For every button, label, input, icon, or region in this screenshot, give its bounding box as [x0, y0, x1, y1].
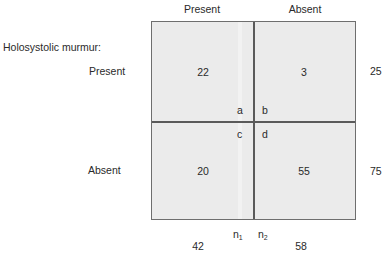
n1-label: n1	[233, 228, 243, 241]
row-header-present: Present	[89, 65, 125, 77]
n2-label: n2	[258, 228, 268, 241]
column-header-absent: Absent	[289, 3, 322, 15]
row-title: Holosystolic murmur:	[3, 41, 101, 53]
cell-a-value: 22	[197, 66, 209, 78]
row-total-present: 25	[370, 65, 382, 77]
column-total-present: 42	[192, 240, 204, 252]
cell-b-label: b	[262, 104, 268, 116]
cell-c-label: c	[237, 128, 242, 140]
horizontal-divider	[152, 121, 355, 123]
cell-c-value: 20	[197, 165, 209, 177]
contingency-table: 22 3 20 55 a b c d	[151, 21, 356, 220]
cell-d-label: d	[262, 128, 268, 140]
row-header-absent: Absent	[88, 164, 121, 176]
column-header-present: Present	[184, 3, 220, 15]
cell-d-value: 55	[298, 165, 310, 177]
cell-a-label: a	[237, 104, 243, 116]
row-total-absent: 75	[370, 165, 382, 177]
cell-b-value: 3	[301, 66, 307, 78]
column-total-absent: 58	[295, 240, 307, 252]
